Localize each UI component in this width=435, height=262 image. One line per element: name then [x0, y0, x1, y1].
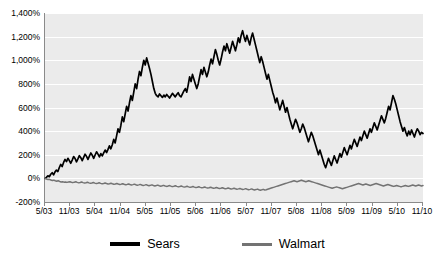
x-axis-tick-label: 5/07 — [237, 206, 254, 217]
x-axis-tick-label: 11/07 — [260, 206, 281, 217]
y-axis: 1,400%1,200%1,000%800%600%400%200%0%-200… — [0, 13, 40, 202]
x-axis-tick-label: 11/06 — [210, 206, 231, 217]
x-axis-tick-label: 5/08 — [288, 206, 305, 217]
y-axis-tick-label: 800% — [0, 79, 40, 88]
y-axis-tick-label: 400% — [0, 127, 40, 136]
x-axis: 5/0311/035/0411/045/0511/055/0611/065/07… — [44, 206, 423, 220]
legend-swatch-icon — [242, 243, 272, 246]
legend-item-walmart[interactable]: Walmart — [242, 237, 325, 251]
x-axis-tick-label: 11/04 — [109, 206, 130, 217]
legend-item-sears[interactable]: Sears — [110, 237, 180, 251]
x-axis-tick-label: 5/09 — [338, 206, 355, 217]
y-axis-tick-label: 0% — [0, 174, 40, 183]
series-line-walmart — [45, 178, 423, 190]
x-axis-tick-label: 11/03 — [59, 206, 80, 217]
x-axis-tick-label: 5/05 — [137, 206, 154, 217]
x-axis-tick-label: 11/08 — [311, 206, 332, 217]
y-axis-tick-label: 1,400% — [0, 9, 40, 18]
x-axis-tick-label: 11/09 — [361, 206, 382, 217]
x-axis-tick-label: 5/06 — [187, 206, 204, 217]
legend-swatch-icon — [110, 242, 140, 246]
y-axis-tick-label: 1,000% — [0, 56, 40, 65]
legend-label: Walmart — [279, 237, 325, 251]
x-axis-tick-label: 11/10 — [412, 206, 433, 217]
x-axis-tick-label: 5/03 — [36, 206, 53, 217]
y-axis-tick-label: 600% — [0, 103, 40, 112]
y-axis-tick-label: 1,200% — [0, 32, 40, 41]
plot-area — [44, 13, 423, 203]
y-axis-tick-label: -200% — [0, 198, 40, 207]
x-axis-tick-label: 11/05 — [160, 206, 181, 217]
x-axis-tick-label: 5/04 — [86, 206, 103, 217]
series-container — [45, 13, 423, 202]
stock-performance-chart: 1,400%1,200%1,000%800%600%400%200%0%-200… — [0, 0, 435, 262]
x-axis-tick-label: 5/10 — [389, 206, 406, 217]
series-line-sears — [45, 31, 423, 179]
chart-legend: SearsWalmart — [0, 234, 435, 254]
legend-label: Sears — [147, 237, 180, 251]
y-axis-tick-label: 200% — [0, 150, 40, 159]
